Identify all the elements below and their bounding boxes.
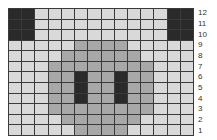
grid-cell <box>141 83 153 93</box>
grid-cell <box>62 9 74 19</box>
grid-cell <box>141 104 153 114</box>
grid-cell <box>9 41 21 51</box>
grid-cell <box>75 41 87 51</box>
grid-cell <box>35 30 47 40</box>
grid-cell <box>75 51 87 61</box>
grid-cell <box>62 30 74 40</box>
grid-cell <box>102 62 114 72</box>
grid-cell <box>9 83 21 93</box>
row-label: 4 <box>198 93 217 104</box>
grid-cell <box>128 41 140 51</box>
grid-cell <box>9 9 21 19</box>
grid-cell <box>22 30 34 40</box>
grid-cell <box>75 9 87 19</box>
grid-cell <box>141 51 153 61</box>
grid-cell <box>181 20 193 30</box>
row-label: 3 <box>198 104 217 115</box>
grid-cell <box>128 30 140 40</box>
row-label: 11 <box>198 19 217 30</box>
grid-cell <box>88 72 100 82</box>
grid-cell <box>35 125 47 135</box>
grid-cell <box>168 125 180 135</box>
grid-cell <box>22 72 34 82</box>
grid-cell <box>181 30 193 40</box>
grid-cell <box>128 20 140 30</box>
grid-cell <box>9 115 21 125</box>
grid-cell <box>115 94 127 104</box>
grid-cell <box>102 104 114 114</box>
grid-cell <box>115 9 127 19</box>
grid-cell <box>22 9 34 19</box>
grid-cell <box>154 41 166 51</box>
grid-cell <box>128 62 140 72</box>
grid-cell <box>49 72 61 82</box>
grid-cell <box>49 115 61 125</box>
grid-cell <box>75 94 87 104</box>
grid-cell <box>128 115 140 125</box>
grid-cell <box>35 115 47 125</box>
grid-cell <box>62 41 74 51</box>
grid-cell <box>22 20 34 30</box>
grid-cell <box>115 83 127 93</box>
grid-cell <box>75 20 87 30</box>
grid-cell <box>35 20 47 30</box>
grid-cell <box>115 104 127 114</box>
grid-cell <box>181 104 193 114</box>
grid-cell <box>88 83 100 93</box>
row-label: 8 <box>198 51 217 62</box>
grid-cell <box>35 83 47 93</box>
grid-cell <box>128 125 140 135</box>
grid-cell <box>102 51 114 61</box>
grid-cell <box>22 62 34 72</box>
grid-cell <box>168 9 180 19</box>
grid-cell <box>75 62 87 72</box>
grid-cell <box>181 115 193 125</box>
grid-cell <box>154 94 166 104</box>
grid-cell <box>102 125 114 135</box>
grid-cell <box>62 83 74 93</box>
grid-cell <box>168 83 180 93</box>
grid-cell <box>22 51 34 61</box>
grid-cell <box>168 30 180 40</box>
pixel-grid <box>8 8 194 136</box>
grid-cell <box>62 125 74 135</box>
grid-cell <box>102 20 114 30</box>
grid-cell <box>22 115 34 125</box>
grid-cell <box>128 104 140 114</box>
grid-cell <box>181 83 193 93</box>
grid-cell <box>141 115 153 125</box>
grid-cell <box>9 51 21 61</box>
grid-cell <box>9 94 21 104</box>
grid-cell <box>181 94 193 104</box>
grid-cell <box>154 20 166 30</box>
grid-cell <box>168 115 180 125</box>
grid-cell <box>102 115 114 125</box>
grid-cell <box>9 104 21 114</box>
grid-cell <box>88 104 100 114</box>
grid-cell <box>141 41 153 51</box>
grid-cell <box>102 9 114 19</box>
grid-cell <box>154 62 166 72</box>
grid-cell <box>62 94 74 104</box>
grid-cell <box>88 94 100 104</box>
grid-cell <box>88 125 100 135</box>
grid-cell <box>115 62 127 72</box>
grid-cell <box>88 30 100 40</box>
grid-cell <box>102 72 114 82</box>
grid-cell <box>181 62 193 72</box>
grid-cell <box>35 41 47 51</box>
grid-cell <box>35 62 47 72</box>
row-label: 5 <box>198 83 217 94</box>
grid-cell <box>154 125 166 135</box>
grid-cell <box>49 51 61 61</box>
grid-cell <box>35 72 47 82</box>
grid-cell <box>141 30 153 40</box>
row-label: 10 <box>198 29 217 40</box>
grid-cell <box>62 115 74 125</box>
row-label: 2 <box>198 115 217 126</box>
grid-cell <box>35 9 47 19</box>
grid-cell <box>49 83 61 93</box>
grid-cell <box>62 62 74 72</box>
grid-cell <box>88 9 100 19</box>
grid-cell <box>49 125 61 135</box>
